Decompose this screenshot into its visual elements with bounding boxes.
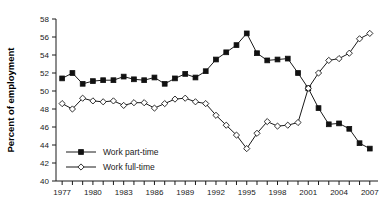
data-point-part-time bbox=[173, 76, 178, 81]
data-point-full-time bbox=[59, 101, 65, 107]
data-point-full-time bbox=[346, 50, 352, 56]
data-point-full-time bbox=[367, 30, 373, 36]
x-tick-label: 1998 bbox=[269, 188, 287, 197]
data-point-full-time bbox=[162, 101, 168, 107]
y-tick-label: 48 bbox=[40, 105, 49, 114]
data-point-part-time bbox=[80, 81, 85, 86]
data-point-part-time bbox=[183, 72, 188, 77]
x-tick-label: 1977 bbox=[53, 188, 71, 197]
data-point-part-time bbox=[285, 56, 290, 61]
data-point-full-time bbox=[182, 95, 188, 101]
line-chart: 4042444648505254565819771980198319861989… bbox=[0, 0, 388, 215]
x-tick-label: 2004 bbox=[330, 188, 348, 197]
series-line-part-time bbox=[62, 33, 370, 148]
x-tick-label: 1992 bbox=[207, 188, 225, 197]
data-point-part-time bbox=[193, 75, 198, 80]
data-point-part-time bbox=[326, 122, 331, 127]
data-point-full-time bbox=[90, 98, 96, 104]
legend-label: Work part-time bbox=[103, 147, 159, 157]
x-tick-label: 1989 bbox=[176, 188, 194, 197]
x-tick-label: 1986 bbox=[146, 188, 164, 197]
y-tick-label: 46 bbox=[40, 123, 49, 132]
data-point-full-time bbox=[356, 36, 362, 42]
y-tick-label: 52 bbox=[40, 69, 49, 78]
y-tick-label: 56 bbox=[40, 33, 49, 42]
data-point-full-time bbox=[131, 100, 137, 106]
data-point-part-time bbox=[91, 79, 96, 84]
data-point-full-time bbox=[336, 56, 342, 62]
data-point-part-time bbox=[224, 50, 229, 55]
data-point-part-time bbox=[101, 78, 106, 83]
data-point-part-time bbox=[60, 76, 65, 81]
data-point-full-time bbox=[141, 100, 147, 106]
data-point-part-time bbox=[121, 74, 126, 79]
y-tick-label: 50 bbox=[40, 87, 49, 96]
data-point-part-time bbox=[367, 146, 372, 151]
data-point-part-time bbox=[132, 77, 137, 82]
data-point-full-time bbox=[295, 119, 301, 125]
x-tick-label: 2001 bbox=[299, 188, 317, 197]
y-tick-label: 44 bbox=[40, 141, 49, 150]
data-point-full-time bbox=[110, 98, 116, 104]
data-point-part-time bbox=[152, 75, 157, 80]
data-point-part-time bbox=[275, 57, 280, 62]
data-point-part-time bbox=[70, 71, 75, 76]
x-tick-label: 1995 bbox=[238, 188, 256, 197]
x-tick-label: 1983 bbox=[115, 188, 133, 197]
data-point-part-time bbox=[316, 106, 321, 111]
data-point-full-time bbox=[192, 99, 198, 105]
data-point-full-time bbox=[151, 105, 157, 111]
legend-label: Work full-time bbox=[103, 162, 155, 172]
data-point-part-time bbox=[214, 57, 219, 62]
data-point-part-time bbox=[337, 121, 342, 126]
series-line-full-time bbox=[62, 33, 370, 148]
data-point-full-time bbox=[100, 99, 106, 105]
data-point-part-time bbox=[255, 51, 260, 56]
legend-marker bbox=[79, 150, 84, 155]
data-point-part-time bbox=[244, 31, 249, 36]
data-point-part-time bbox=[296, 71, 301, 76]
data-point-part-time bbox=[111, 78, 116, 83]
data-point-full-time bbox=[274, 123, 280, 129]
y-tick-label: 54 bbox=[40, 51, 49, 60]
data-point-part-time bbox=[203, 69, 208, 74]
data-point-part-time bbox=[265, 58, 270, 63]
data-point-full-time bbox=[285, 122, 291, 128]
y-tick-label: 58 bbox=[40, 15, 49, 24]
x-tick-label: 2007 bbox=[361, 188, 379, 197]
data-point-part-time bbox=[142, 78, 147, 83]
y-axis-title: Percent of employment bbox=[5, 47, 16, 153]
y-tick-label: 42 bbox=[40, 159, 49, 168]
data-point-full-time bbox=[172, 96, 178, 102]
data-point-full-time bbox=[121, 102, 127, 108]
data-point-part-time bbox=[234, 43, 239, 48]
legend-marker bbox=[78, 164, 84, 170]
data-point-part-time bbox=[162, 81, 167, 86]
x-tick-label: 1980 bbox=[84, 188, 102, 197]
chart-container: 4042444648505254565819771980198319861989… bbox=[0, 0, 388, 215]
y-tick-label: 40 bbox=[40, 177, 49, 186]
data-point-part-time bbox=[347, 126, 352, 131]
data-point-part-time bbox=[357, 141, 362, 146]
